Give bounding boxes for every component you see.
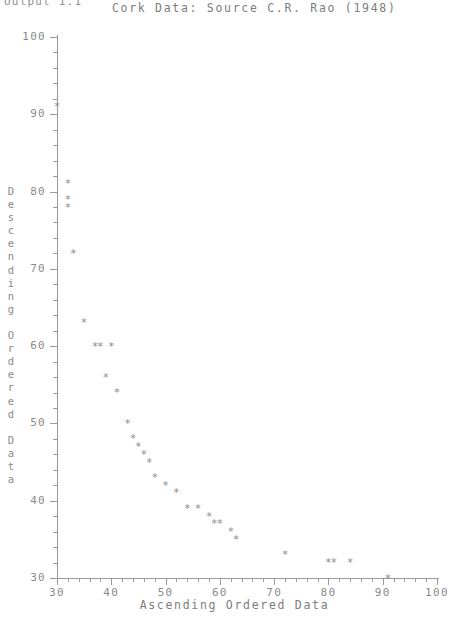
y-axis-title-char: i — [5, 277, 17, 290]
y-tick-minor — [53, 130, 57, 131]
y-tick-minor — [53, 485, 57, 486]
x-tick-minor — [263, 578, 264, 582]
y-tick-minor — [53, 454, 57, 455]
x-tick-minor — [90, 578, 91, 582]
y-tick-label: 40 — [0, 494, 46, 507]
x-tick-minor — [122, 578, 123, 582]
y-axis-title-char: s — [5, 211, 17, 224]
y-tick-major — [50, 192, 57, 193]
scatter-point: * — [63, 203, 72, 212]
x-tick-minor — [144, 578, 145, 582]
y-tick-minor — [53, 253, 57, 254]
scatter-point: * — [145, 458, 154, 467]
y-tick-major — [50, 346, 57, 347]
y-axis-title-char: r — [5, 381, 17, 394]
scatter-point: * — [123, 419, 132, 428]
scatter-point: * — [329, 558, 338, 567]
y-tick-minor — [53, 315, 57, 316]
y-tick-minor — [53, 207, 57, 208]
x-tick-major — [328, 578, 329, 585]
x-tick-minor — [350, 578, 351, 582]
y-axis-title-char: r — [5, 342, 17, 355]
scatter-point: * — [232, 535, 241, 544]
y-tick-minor — [53, 377, 57, 378]
y-axis-title-char: c — [5, 224, 17, 237]
scatter-point: * — [281, 550, 290, 559]
y-tick-major — [50, 114, 57, 115]
x-tick-minor — [426, 578, 427, 582]
y-tick-major — [50, 269, 57, 270]
scatter-point: * — [215, 519, 224, 528]
chart-title: Cork Data: Source C.R. Rao (1948) — [112, 1, 397, 15]
y-axis-title-char: d — [5, 408, 17, 421]
x-tick-minor — [242, 578, 243, 582]
x-tick-minor — [100, 578, 101, 582]
scatter-point: * — [194, 504, 203, 513]
x-tick-minor — [415, 578, 416, 582]
y-tick-minor — [53, 222, 57, 223]
y-axis-title-char — [5, 421, 17, 434]
y-tick-major — [50, 423, 57, 424]
y-axis-line — [57, 35, 58, 580]
y-axis-title-char: e — [5, 198, 17, 211]
y-tick-minor — [53, 52, 57, 53]
y-axis-title-char: O — [5, 329, 17, 342]
x-tick-minor — [176, 578, 177, 582]
y-axis-title-char — [5, 316, 17, 329]
y-tick-label: 100 — [0, 30, 46, 43]
y-axis-title-char: e — [5, 395, 17, 408]
x-axis-title: Ascending Ordered Data — [0, 598, 469, 612]
y-tick-major — [50, 578, 57, 579]
x-tick-minor — [361, 578, 362, 582]
scatter-point: * — [96, 342, 105, 351]
y-tick-major — [50, 37, 57, 38]
scatter-point: * — [384, 574, 393, 583]
y-tick-minor — [53, 68, 57, 69]
y-axis-title-char: n — [5, 250, 17, 263]
x-tick-minor — [252, 578, 253, 582]
x-tick-major — [57, 578, 58, 585]
x-tick-major — [274, 578, 275, 585]
y-tick-minor — [53, 161, 57, 162]
scatter-point: * — [69, 249, 78, 258]
scatter-point: * — [112, 388, 121, 397]
y-axis-title-char: e — [5, 237, 17, 250]
x-tick-minor — [133, 578, 134, 582]
y-tick-minor — [53, 238, 57, 239]
y-tick-minor — [53, 393, 57, 394]
x-tick-minor — [285, 578, 286, 582]
y-axis-title-char: d — [5, 264, 17, 277]
y-tick-minor — [53, 300, 57, 301]
y-tick-minor — [53, 516, 57, 517]
y-tick-minor — [53, 362, 57, 363]
x-tick-minor — [187, 578, 188, 582]
scatter-point: * — [346, 558, 355, 567]
x-tick-minor — [339, 578, 340, 582]
scatter-point: * — [107, 342, 116, 351]
y-tick-minor — [53, 145, 57, 146]
y-axis-title-char: D — [5, 185, 17, 198]
scatter-point: * — [183, 504, 192, 513]
output-label: Output 1.1 — [4, 0, 82, 8]
y-tick-major — [50, 501, 57, 502]
y-tick-minor — [53, 470, 57, 471]
scatter-point: * — [80, 318, 89, 327]
x-tick-minor — [307, 578, 308, 582]
x-tick-minor — [209, 578, 210, 582]
y-axis-title-char: n — [5, 290, 17, 303]
x-tick-minor — [155, 578, 156, 582]
y-tick-label: 90 — [0, 107, 46, 120]
y-axis-title-char: a — [5, 473, 17, 486]
x-tick-major — [166, 578, 167, 585]
y-tick-minor — [53, 439, 57, 440]
x-tick-minor — [404, 578, 405, 582]
x-tick-minor — [68, 578, 69, 582]
y-axis-title: Descending Ordered Data — [5, 185, 17, 486]
x-tick-minor — [318, 578, 319, 582]
scatter-point: * — [101, 373, 110, 382]
y-tick-minor — [53, 563, 57, 564]
y-tick-label: 30 — [0, 571, 46, 584]
chart-canvas: Output 1.1 Cork Data: Source C.R. Rao (1… — [0, 0, 469, 617]
x-tick-major — [111, 578, 112, 585]
y-axis-title-char: a — [5, 447, 17, 460]
